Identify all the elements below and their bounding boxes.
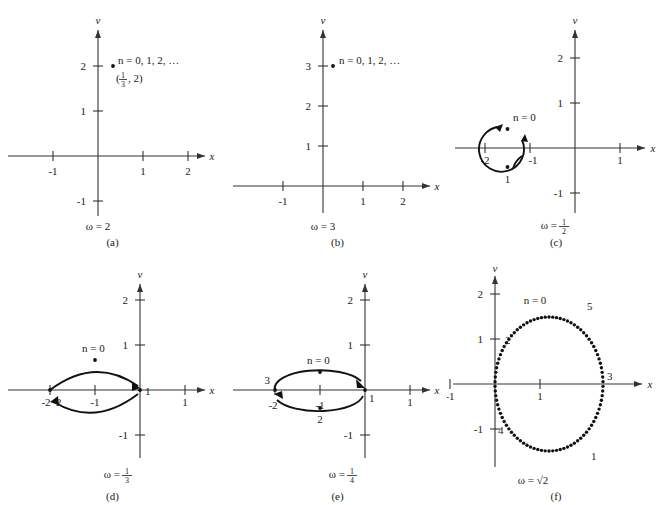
point-annotation: n = 0, 1, 2, … bbox=[118, 54, 179, 66]
point-annotation: n = 0, 1, 2, … bbox=[339, 54, 400, 66]
orbit-dot bbox=[540, 449, 543, 452]
x-axis-arrow bbox=[637, 145, 645, 151]
orbit-dot bbox=[497, 407, 500, 410]
orbit-label-1: 1 bbox=[505, 173, 511, 185]
v-axis-label: v bbox=[96, 14, 101, 26]
orbit-point-3 bbox=[273, 388, 277, 392]
x-axis-label: x bbox=[650, 142, 656, 154]
orbit-dot bbox=[547, 315, 550, 318]
orbit-dot bbox=[522, 441, 525, 444]
orbit-dot bbox=[510, 431, 513, 434]
v-ticklabel-2: 2 bbox=[123, 294, 129, 306]
orbit-dot bbox=[576, 325, 579, 328]
panel-caption-d: (d) bbox=[0, 490, 225, 502]
orbit-dot bbox=[585, 334, 588, 337]
orbit-dot bbox=[562, 318, 565, 321]
v-axis-arrow bbox=[137, 284, 143, 292]
x-ticklabel-1: 1 bbox=[617, 154, 623, 166]
orbit-dot bbox=[599, 362, 602, 365]
orbit-dot bbox=[601, 389, 604, 392]
orbit-point-n0 bbox=[506, 127, 510, 131]
figure-root: -1 1 2 2 1 -1 x v n = 0, 1, 2, … ( 1 3 ,… bbox=[0, 0, 665, 505]
orbit-dot bbox=[569, 321, 572, 324]
v-ticklabel-2: 2 bbox=[306, 100, 312, 112]
panel-caption-e: (e) bbox=[225, 490, 450, 502]
orbit-dot bbox=[522, 323, 525, 326]
x-ticklabel-2: 2 bbox=[400, 195, 406, 207]
orbit-dot bbox=[499, 353, 502, 356]
orbit-label-1: 1 bbox=[369, 392, 375, 404]
x-axis-label: x bbox=[434, 180, 440, 192]
panel-c: -2 -1 1 2 1 -1 x v n = 0 1 ω = 1 2 bbox=[447, 8, 665, 248]
orbit-dot bbox=[513, 434, 516, 437]
coordinate-numerator: 1 bbox=[121, 71, 125, 80]
arrow-head-bottom bbox=[521, 134, 528, 142]
x-ticklabel-neg2: -2 bbox=[41, 396, 50, 408]
orbit-point-1 bbox=[363, 388, 367, 392]
orbit-dot bbox=[519, 439, 522, 442]
panel-caption-a: (a) bbox=[0, 236, 225, 248]
panel-e: -2 -1 1 2 1 -1 x v n = 0 3 1 2 ω = 1 bbox=[225, 262, 450, 502]
v-ticklabel-1: 1 bbox=[478, 333, 484, 345]
orbit-dot bbox=[600, 366, 603, 369]
x-axis-arrow bbox=[422, 183, 430, 189]
panel-b: -1 1 2 3 2 1 x v n = 0, 1, 2, … ω = 3 (b… bbox=[225, 8, 450, 248]
v-axis-label: v bbox=[138, 268, 143, 280]
omega-label: ω = 1 3 bbox=[104, 467, 132, 485]
orbit-dot bbox=[544, 449, 547, 452]
x-ticklabel-neg1: -1 bbox=[528, 154, 537, 166]
orbit-dot bbox=[494, 394, 497, 397]
data-point bbox=[111, 64, 115, 68]
panel-a: -1 1 2 2 1 -1 x v n = 0, 1, 2, … ( 1 3 ,… bbox=[0, 8, 225, 248]
orbit-label-3: 3 bbox=[607, 370, 613, 382]
orbit-dot bbox=[501, 416, 504, 419]
v-ticklabel-neg1: -1 bbox=[119, 429, 128, 441]
orbit-dot bbox=[600, 371, 603, 374]
orbit-label-n0: n = 0 bbox=[307, 354, 330, 366]
orbit-point-1 bbox=[506, 165, 510, 169]
orbit-label-n0: n = 0 bbox=[513, 111, 536, 123]
x-axis-label: x bbox=[647, 378, 653, 390]
panel-f: -1 1 2 1 -1 x v n = 0 5 2 3 4 1 ω = √2 (… bbox=[447, 262, 665, 502]
orbit-dot bbox=[496, 403, 499, 406]
orbit-dot bbox=[493, 385, 496, 388]
orbit-dot bbox=[590, 341, 593, 344]
orbit-dot bbox=[501, 349, 504, 352]
orbit-dot bbox=[529, 445, 532, 448]
orbit-dot bbox=[579, 328, 582, 331]
v-axis-arrow bbox=[95, 30, 101, 38]
orbit-dot bbox=[547, 449, 550, 452]
orbit-dot bbox=[525, 321, 528, 324]
orbit-dot bbox=[503, 420, 506, 423]
v-ticklabel-1: 1 bbox=[558, 97, 564, 109]
orbit-dot bbox=[582, 434, 585, 437]
omega-label: ω = 1 4 bbox=[329, 467, 357, 485]
v-ticklabel-2: 2 bbox=[348, 294, 354, 306]
orbit-dot bbox=[505, 424, 508, 427]
omega-numerator: 1 bbox=[350, 467, 354, 476]
v-axis-label: v bbox=[493, 262, 498, 274]
x-ticklabel-1: 1 bbox=[182, 396, 188, 408]
x-ticklabel-1: 1 bbox=[360, 195, 366, 207]
orbit-dot bbox=[513, 331, 516, 334]
orbit-dot bbox=[566, 445, 569, 448]
orbit-label-n0: n = 0 bbox=[82, 342, 105, 354]
orbit-dot bbox=[529, 319, 532, 322]
panel-caption-f: (f) bbox=[447, 490, 665, 502]
orbit-dot bbox=[559, 448, 562, 451]
v-axis-label: v bbox=[321, 14, 326, 26]
orbit-dot bbox=[494, 375, 497, 378]
orbit-dot bbox=[551, 449, 554, 452]
x-ticklabel-neg2: -2 bbox=[268, 399, 277, 411]
panel-d: -2 -1 1 2 1 -1 x v n = 0 2 1 ω = 1 3 bbox=[0, 262, 225, 502]
x-ticklabel-neg1: -1 bbox=[447, 390, 455, 402]
orbit-dot bbox=[555, 449, 558, 452]
orbit-dot bbox=[536, 317, 539, 320]
orbit-label-2: 2 bbox=[317, 413, 323, 425]
orbit-dot bbox=[540, 316, 543, 319]
v-ticklabel-neg1: -1 bbox=[344, 429, 353, 441]
orbit-label-1: 1 bbox=[145, 385, 151, 397]
x-ticklabel-neg1: -1 bbox=[90, 396, 99, 408]
orbit-dot bbox=[494, 371, 497, 374]
v-ticklabel-1: 1 bbox=[348, 339, 354, 351]
